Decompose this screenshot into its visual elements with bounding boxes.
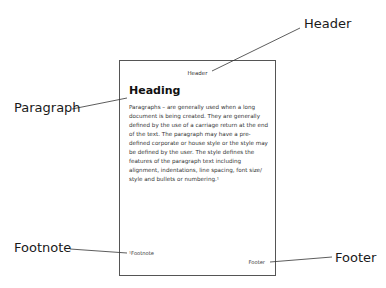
callout-footnote-label: Footnote [14, 240, 71, 255]
page-header-text: Header [120, 70, 275, 76]
page-heading: Heading [129, 84, 180, 97]
document-page: Header Heading Paragraphs – are generall… [119, 60, 276, 276]
page-paragraph: Paragraphs – are generally used when a l… [129, 103, 271, 184]
page-footer: Footer [248, 259, 265, 265]
footer-callout-line [270, 257, 332, 262]
page-footnote: ¹Footnote [129, 250, 154, 256]
callout-header-label: Header [304, 16, 351, 31]
callout-paragraph-label: Paragraph [14, 100, 81, 115]
callout-footer-label: Footer [335, 250, 376, 265]
